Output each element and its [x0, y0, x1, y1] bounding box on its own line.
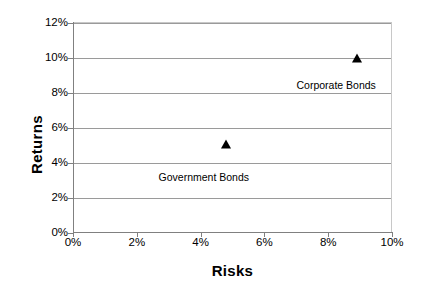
- gridline-4: [73, 163, 391, 164]
- x-tick-label-6: 6%: [256, 236, 273, 249]
- gridline-8: [73, 93, 391, 94]
- y-tick-label-12: 12%: [45, 16, 68, 28]
- gridline-2: [73, 198, 391, 199]
- x-tick-label-8: 8%: [320, 236, 337, 249]
- y-tick-label-4: 4%: [51, 156, 68, 168]
- gridline-12: [73, 23, 391, 24]
- x-tick-label-10: 10%: [380, 236, 403, 249]
- y-axis-line: [73, 22, 74, 233]
- y-tick-label-6: 6%: [51, 121, 68, 133]
- x-tick-label-2: 2%: [128, 236, 145, 249]
- y-tick-label-2: 2%: [51, 191, 68, 203]
- y-axis-title: Returns: [10, 82, 30, 174]
- x-tick-label-0: 0%: [65, 236, 82, 249]
- gridline-10: [73, 58, 391, 59]
- x-axis-title: Risks: [73, 262, 392, 279]
- gridline-6: [73, 128, 391, 129]
- data-marker-corporate-bonds[interactable]: [352, 54, 362, 63]
- y-tick-label-8: 8%: [51, 86, 68, 98]
- y-tick-label-10: 10%: [45, 51, 68, 63]
- data-marker-government-bonds[interactable]: [221, 139, 231, 148]
- x-tick-label-4: 4%: [192, 236, 209, 249]
- plot-area: Government Bonds Corporate Bonds: [73, 22, 392, 232]
- x-axis-line: [73, 232, 393, 233]
- point-label-corporate-bonds: Corporate Bonds: [296, 79, 375, 91]
- point-label-government-bonds: Government Bonds: [159, 171, 249, 183]
- scatter-chart: Government Bonds Corporate Bonds 12% 10%…: [0, 0, 421, 295]
- y-axis-title-text: Returns: [28, 115, 46, 174]
